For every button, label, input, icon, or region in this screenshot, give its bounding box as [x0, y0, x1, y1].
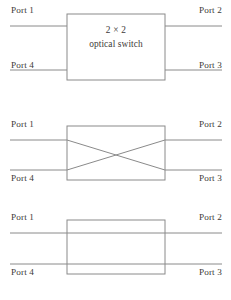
- port-label-port1-panel3: Port 1: [11, 213, 34, 222]
- port-label-port4-panel1: Port 4: [11, 61, 34, 70]
- switch-box-outline-cross: [67, 126, 165, 180]
- panel-cross-graphics: [0, 100, 231, 200]
- panel-labeled-switch: 2 × 2 optical switch Port 1 Port 2 Port …: [0, 0, 231, 100]
- port-label-port2-panel1: Port 2: [199, 6, 222, 15]
- panel-cross-state: Port 1 Port 2 Port 4 Port 3: [0, 100, 231, 200]
- port-label-port3-panel3: Port 3: [199, 268, 222, 277]
- port-label-port3-panel2: Port 3: [199, 174, 222, 183]
- port-label-port1-panel1: Port 1: [11, 6, 34, 15]
- switch-box-label-line1: 2 × 2: [67, 24, 165, 38]
- panel-bar-graphics: [0, 200, 231, 300]
- port-label-port2-panel2: Port 2: [199, 120, 222, 129]
- port-label-port4-panel2: Port 4: [11, 174, 34, 183]
- switch-box-label: 2 × 2 optical switch: [67, 24, 165, 51]
- port-label-port4-panel3: Port 4: [11, 268, 34, 277]
- switch-box-outline-bar: [67, 220, 165, 274]
- port-label-port1-panel2: Port 1: [11, 120, 34, 129]
- optical-switch-figure: 2 × 2 optical switch Port 1 Port 2 Port …: [0, 0, 231, 300]
- port-label-port2-panel3: Port 2: [199, 213, 222, 222]
- switch-box-label-line2: optical switch: [67, 38, 165, 52]
- panel-bar-state: Port 1 Port 2 Port 4 Port 3: [0, 200, 231, 300]
- port-label-port3-panel1: Port 3: [199, 61, 222, 70]
